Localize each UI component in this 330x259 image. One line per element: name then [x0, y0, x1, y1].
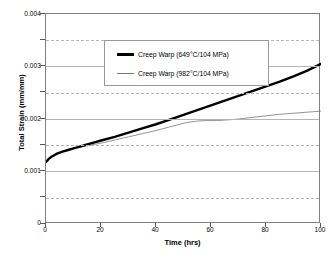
- creep-strain-figure: 0.004 0.003 0.002 0.001 0 Creep Warp: [0, 0, 330, 259]
- legend-label: Creep Warp (982°C/104 MPa): [138, 70, 229, 78]
- x-tick-label: 80: [245, 226, 285, 233]
- x-axis-tick-labels: 0 20 40 60 80 100: [0, 226, 330, 238]
- gridline-minor-0005: [46, 198, 319, 199]
- x-tick-label: 20: [80, 226, 120, 233]
- chart-legend: Creep Warp (649°C/104 MPa) Creep Warp (9…: [104, 40, 269, 86]
- legend-line-swatch-thick-icon: [117, 53, 134, 55]
- gridline-minor-0025: [46, 93, 319, 94]
- x-axis-title: Time (hrs): [45, 238, 320, 247]
- x-tick-label: 0: [25, 226, 65, 233]
- legend-entry-982c: Creep Warp (982°C/104 MPa): [105, 64, 268, 83]
- plot-area: Creep Warp (649°C/104 MPa) Creep Warp (9…: [45, 13, 320, 223]
- legend-entry-649c: Creep Warp (649°C/104 MPa): [105, 45, 268, 64]
- gridline-minor-0015: [46, 145, 319, 146]
- y-tick-label: 0: [0, 219, 41, 226]
- y-axis-title: Total Strain (mm/mm): [17, 38, 26, 188]
- gridline-major-0010: [46, 171, 319, 172]
- legend-label: Creep Warp (649°C/104 MPa): [138, 51, 229, 59]
- x-tick-label: 100: [300, 226, 330, 233]
- x-tick-label: 40: [135, 226, 175, 233]
- legend-line-swatch-thin-icon: [117, 73, 134, 74]
- x-tick-label: 60: [190, 226, 230, 233]
- gridline-major-0020: [46, 119, 319, 120]
- y-tick-label: 0.004: [0, 10, 41, 17]
